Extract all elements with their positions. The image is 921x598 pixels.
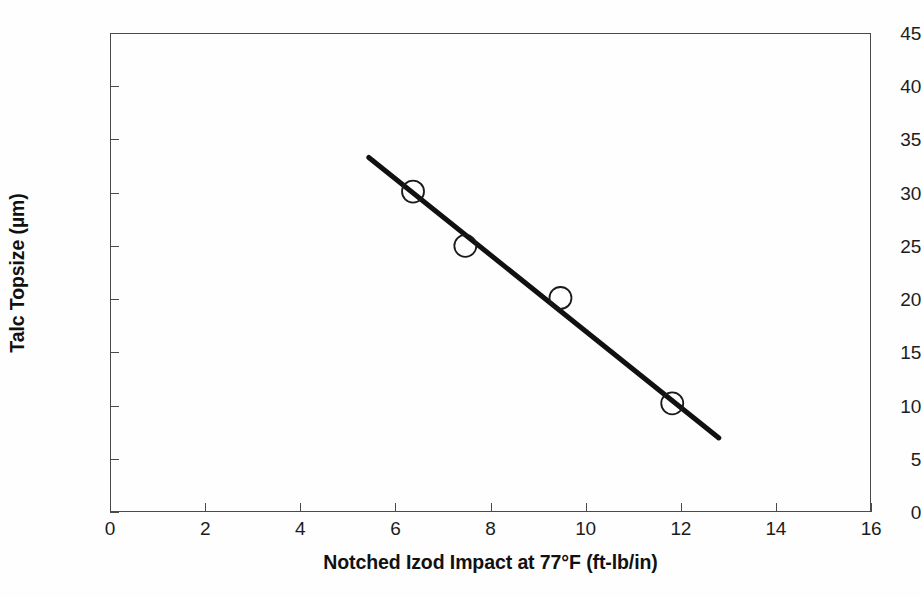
y-axis-title: Talc Topsize (µm) xyxy=(6,193,29,352)
x-tick-label: 10 xyxy=(551,519,621,538)
x-tick-mark xyxy=(205,503,206,512)
data-point-marker xyxy=(549,287,571,309)
x-tick-mark xyxy=(586,503,587,512)
x-tick-mark xyxy=(681,503,682,512)
x-tick-label: 12 xyxy=(646,519,716,538)
x-tick-label: 2 xyxy=(170,519,240,538)
x-tick-mark xyxy=(776,503,777,512)
x-tick-label: 14 xyxy=(741,519,811,538)
chart-figure: Talc Topsize (µm) 051015202530354045 024… xyxy=(0,0,921,598)
x-tick-mark xyxy=(871,503,872,512)
x-tick-label: 6 xyxy=(360,519,430,538)
x-tick-mark xyxy=(395,503,396,512)
x-tick-mark xyxy=(110,503,111,512)
x-tick-label: 16 xyxy=(836,519,906,538)
x-tick-mark xyxy=(300,503,301,512)
plot-area xyxy=(110,33,871,512)
data-point-marker xyxy=(454,235,476,257)
x-tick-label: 8 xyxy=(456,519,526,538)
x-tick-label: 4 xyxy=(265,519,335,538)
x-axis-title: Notched Izod Impact at 77°F (ft-lb/in) xyxy=(110,551,871,574)
y-axis-title-container: Talc Topsize (µm) xyxy=(0,33,34,512)
x-tick-mark xyxy=(491,503,492,512)
plot-canvas xyxy=(111,34,872,513)
x-tick-label: 0 xyxy=(75,519,145,538)
